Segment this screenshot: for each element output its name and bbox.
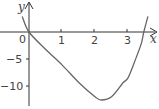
y-tick-label-neg10: −10 xyxy=(0,80,23,93)
curve-line xyxy=(22,17,147,100)
x-tick-label-2: 2 xyxy=(91,34,98,47)
chart-canvas: y x 0 1 2 3 −5 −10 xyxy=(0,0,159,109)
origin-label: 0 xyxy=(19,33,26,46)
y-tick-label-neg5: −5 xyxy=(6,53,22,66)
x-axis-label: x xyxy=(150,32,157,46)
y-axis-label: y xyxy=(17,0,25,14)
x-tick-label-3: 3 xyxy=(124,34,131,47)
x-tick-label-1: 1 xyxy=(58,34,65,47)
